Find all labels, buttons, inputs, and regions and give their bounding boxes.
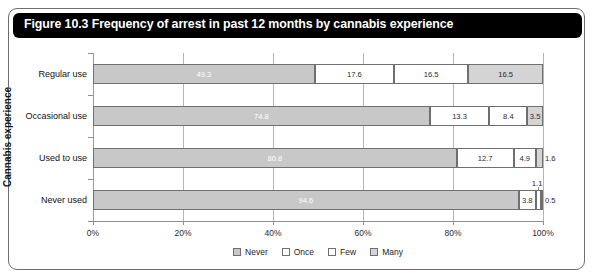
figure-container: Figure 10.3 Frequency of arrest in past …	[8, 8, 585, 270]
x-axis-tick-label: 40%	[264, 228, 281, 238]
legend-swatch-icon	[328, 248, 336, 256]
bar-segment-value-label: 1.1	[532, 179, 543, 188]
y-axis-tick	[88, 53, 93, 54]
bar-segment-many[interactable]	[536, 148, 543, 168]
bar-segment-many[interactable]	[541, 190, 543, 210]
bar-segment-many[interactable]: 16.5	[468, 64, 543, 84]
bar-segment-once[interactable]: 13.3	[430, 106, 490, 126]
bar-segment-once[interactable]: 3.8	[519, 190, 536, 210]
figure-title-bar: Figure 10.3 Frequency of arrest in past …	[13, 13, 582, 38]
x-axis-tick	[543, 221, 544, 225]
x-axis-tick	[93, 221, 94, 225]
x-axis-tick-label: 80%	[444, 228, 461, 238]
bar-segment-few[interactable]: 16.5	[394, 64, 468, 84]
legend-label: Many	[382, 247, 403, 257]
x-axis-tick	[183, 221, 184, 225]
gridline	[543, 53, 544, 221]
y-axis-category-never-used: Never used	[0, 195, 87, 205]
y-axis-category-used-to-use: Used to use	[0, 153, 87, 163]
y-axis-category-regular-use: Regular use	[0, 69, 87, 79]
bar-segment-many[interactable]: 3.5	[527, 106, 543, 126]
plot-area: 49.317.616.516.574.813.38.43.51.680.812.…	[93, 53, 543, 221]
bar-segment-few[interactable]: 4.9	[514, 148, 536, 168]
bar-segment-never[interactable]: 80.8	[93, 148, 457, 168]
y-axis-category-occasional-use: Occasional use	[0, 111, 87, 121]
legend-item-never[interactable]: Never	[233, 247, 268, 257]
bar-segment-never[interactable]: 94.6	[93, 190, 519, 210]
x-axis-tick-label: 100%	[532, 228, 554, 238]
x-axis-tick-label: 20%	[174, 228, 191, 238]
x-axis-tick	[273, 221, 274, 225]
bar-segment-value-label: 1.6	[545, 154, 556, 163]
bar-segment-once[interactable]: 12.7	[457, 148, 514, 168]
bar-segment-once[interactable]: 17.6	[315, 64, 394, 84]
bar-segment-never[interactable]: 49.3	[93, 64, 315, 84]
x-axis-tick	[453, 221, 454, 225]
bar-row: 80.812.74.9	[93, 148, 543, 168]
y-axis-tick	[88, 137, 93, 138]
figure-title: Figure 10.3 Frequency of arrest in past …	[24, 17, 453, 31]
bar-row: 94.63.8	[93, 190, 543, 210]
x-axis-line	[93, 221, 543, 222]
legend-item-once[interactable]: Once	[282, 247, 314, 257]
legend-swatch-icon	[233, 248, 241, 256]
y-axis-tick	[88, 179, 93, 180]
bar-segment-value-label: 0.5	[545, 196, 556, 205]
legend-label: Once	[294, 247, 314, 257]
legend-label: Never	[245, 247, 268, 257]
bar-row: 49.317.616.516.5	[93, 64, 543, 84]
x-axis-tick-label: 0%	[87, 228, 99, 238]
x-axis-tick	[363, 221, 364, 225]
chart-legend: NeverOnceFewMany	[93, 245, 543, 259]
legend-item-many[interactable]: Many	[370, 247, 403, 257]
bar-segment-never[interactable]: 74.8	[93, 106, 430, 126]
bar-segment-few[interactable]: 8.4	[489, 106, 527, 126]
y-axis-tick	[88, 95, 93, 96]
x-axis-tick-label: 60%	[354, 228, 371, 238]
legend-swatch-icon	[282, 248, 290, 256]
legend-swatch-icon	[370, 248, 378, 256]
bar-row: 74.813.38.43.5	[93, 106, 543, 126]
legend-item-few[interactable]: Few	[328, 247, 356, 257]
legend-label: Few	[340, 247, 356, 257]
